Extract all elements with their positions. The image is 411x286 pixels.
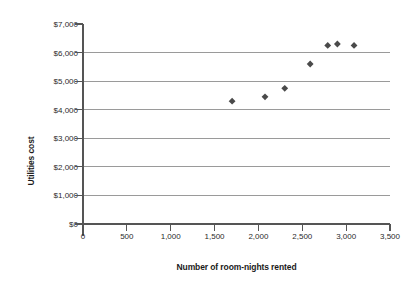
plot-area — [0, 0, 411, 286]
x-axis-title: Number of room-nights rented — [83, 262, 390, 272]
data-point-marker — [351, 42, 358, 49]
x-axis-tick-label: 0 — [81, 232, 85, 241]
gridlines — [83, 53, 390, 196]
x-axis-tick-label: 1,500 — [205, 232, 225, 241]
data-point-marker — [262, 93, 269, 100]
x-axis-tick-label: 500 — [120, 232, 133, 241]
axis-lines — [75, 24, 390, 236]
data-point-marker — [324, 42, 331, 49]
data-point-marker — [281, 85, 288, 92]
y-axis-ticks — [75, 24, 83, 224]
data-point-marker — [307, 61, 314, 68]
x-axis-tick-label: 3,500 — [380, 232, 400, 241]
data-point-marker — [334, 41, 341, 48]
x-axis-tick-label: 2,500 — [292, 232, 312, 241]
data-points — [229, 41, 358, 105]
x-axis-tick-label: 1,000 — [161, 232, 181, 241]
scatter-chart: Utilities cost $0$1,000$2,000$3,000$4,00… — [0, 0, 411, 286]
x-axis-tick-label: 2,000 — [248, 232, 268, 241]
x-axis-tick-label: 3,000 — [336, 232, 356, 241]
data-point-marker — [229, 98, 236, 105]
x-axis-ticks — [83, 224, 390, 231]
